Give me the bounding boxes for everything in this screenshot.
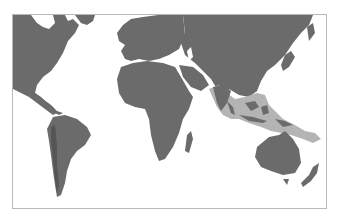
- region-greenland: [75, 15, 95, 25]
- region-tasmania: [283, 179, 289, 185]
- region-north-america: [13, 15, 79, 115]
- region-new-zealand: [301, 163, 319, 187]
- map-frame: World map with highlighted Indo-Pacific …: [12, 14, 327, 209]
- region-australia: [255, 131, 301, 175]
- region-africa: [117, 61, 193, 161]
- world-map: [13, 15, 327, 209]
- region-madagascar: [185, 131, 193, 153]
